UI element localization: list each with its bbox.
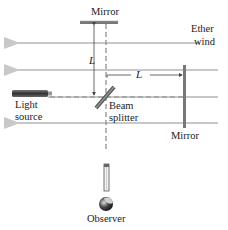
beam-splitter-label-line2: splitter bbox=[109, 112, 138, 123]
observer-label: Observer bbox=[87, 213, 125, 224]
horizontal-length-label: L bbox=[136, 69, 142, 80]
ether-wind-label-line2: wind bbox=[194, 36, 215, 47]
right-mirror-label: Mirror bbox=[171, 130, 199, 141]
right-mirror bbox=[183, 65, 186, 128]
light-source bbox=[12, 90, 52, 97]
top-mirror-label: Mirror bbox=[91, 6, 119, 17]
vertical-length-label: L bbox=[89, 55, 95, 66]
observer-telescope bbox=[104, 164, 109, 191]
observer-eye bbox=[99, 197, 113, 211]
ether-wind-arrows bbox=[18, 43, 218, 123]
horizontal-length-dimension bbox=[107, 75, 182, 78]
interferometer-diagram: Mirror Ether wind L L Light source Beam … bbox=[0, 0, 228, 230]
top-mirror bbox=[80, 21, 118, 24]
light-source-label-line1: Light bbox=[15, 99, 38, 110]
beam-splitter-label-line1: Beam bbox=[109, 100, 134, 111]
light-source-label-line2: source bbox=[15, 111, 42, 122]
ether-wind-label-line1: Ether bbox=[191, 23, 214, 34]
